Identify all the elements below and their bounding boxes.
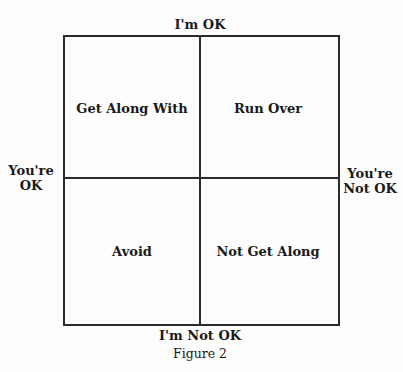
axis-label-top: I'm OK xyxy=(150,17,250,32)
axis-label-left: You're OK xyxy=(0,163,62,193)
axis-label-right-line2: Not OK xyxy=(337,181,403,196)
quadrant-bottom-right: Not Get Along xyxy=(200,244,336,259)
axis-label-right-line1: You're xyxy=(337,166,403,181)
horizontal-divider xyxy=(63,177,338,179)
quadrant-top-left: Get Along With xyxy=(64,101,200,116)
vertical-divider xyxy=(199,35,201,324)
figure-caption: Figure 2 xyxy=(150,346,250,361)
axis-label-left-line2: OK xyxy=(0,178,62,193)
axis-label-bottom: I'm Not OK xyxy=(140,328,260,343)
quadrant-frame xyxy=(63,35,340,326)
quadrant-bottom-left: Avoid xyxy=(64,244,200,259)
quadrant-top-right: Run Over xyxy=(200,101,336,116)
axis-label-left-line1: You're xyxy=(0,163,62,178)
axis-label-right: You're Not OK xyxy=(337,166,403,196)
